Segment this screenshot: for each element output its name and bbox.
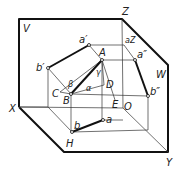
label-Z: Z [121,6,130,17]
label-V: V [23,23,31,34]
label-X: X [8,103,17,114]
label-A: A [98,47,106,58]
proj-line [48,107,72,132]
proj-line [71,94,148,96]
label-beta: β [67,80,73,89]
label-C: C [52,88,59,99]
label-a-dprime: a″ [137,49,147,60]
line-a-prime-b-prime [48,45,89,68]
label-W: W [156,69,167,80]
point-b-prime [47,67,50,70]
label-H: H [66,138,74,149]
label-b-dprime: b″ [150,86,160,97]
label-alpha: α [86,84,92,93]
v-plane-frame [19,19,168,152]
label-a-prime: a′ [79,34,88,45]
label-b-prime: b′ [36,62,45,73]
label-D: D [106,79,114,90]
point-A [101,59,104,62]
z-axis [122,19,123,108]
label-a: a [106,114,112,125]
proj-line [124,45,135,60]
point-a-prime [88,44,91,47]
label-B: B [63,95,70,106]
label-a-z: aZ [125,36,136,45]
projection-diagram: V W H X Y Z O A B C D E a′ b′ a b aZ a″ … [0,0,183,171]
line-a-dprime-b-dprime [135,60,148,96]
label-gamma: γ [96,68,102,77]
point-B [70,93,73,96]
proj-line [72,130,148,132]
point-a [102,119,105,122]
label-E: E [112,99,119,110]
label-b: b [74,120,80,131]
label-Y: Y [166,157,173,168]
label-O: O [124,101,132,112]
